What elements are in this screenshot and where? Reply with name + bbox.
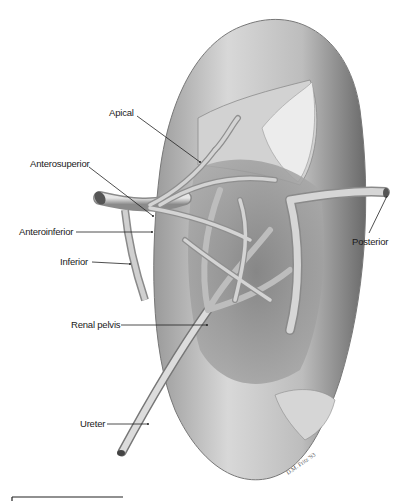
kidney-illustration: D.M. Fritz '93 (0, 0, 410, 501)
label-apical: Apical (109, 107, 134, 118)
label-ureter: Ureter (80, 418, 105, 429)
label-inferior: Inferior (60, 256, 88, 267)
label-anterosuperior: Anterosuperior (30, 158, 90, 169)
label-anteroinferior: Anteroinferior (19, 226, 73, 237)
label-renal-pelvis: Renal pelvis (71, 319, 120, 330)
label-posterior: Posterior (352, 236, 388, 247)
